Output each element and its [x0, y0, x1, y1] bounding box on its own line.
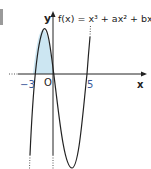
x-axis-label: x [137, 79, 144, 90]
y-axis-arrow-icon [51, 11, 56, 17]
curve-extension-right [90, 25, 91, 37]
tick-label-right-root: 5 [87, 79, 93, 90]
tick-label-left-root: −3 [20, 79, 35, 90]
graph: y f(x) = x³ + ax² + bx x −3 O 5 [0, 0, 151, 169]
x-axis-arrow-icon [141, 72, 147, 77]
origin-label: O [44, 77, 52, 88]
y-axis-label: y [44, 12, 51, 25]
edge-bar [0, 9, 3, 25]
function-title: f(x) = x³ + ax² + bx [58, 13, 151, 24]
curve-extension-left [30, 155, 31, 169]
